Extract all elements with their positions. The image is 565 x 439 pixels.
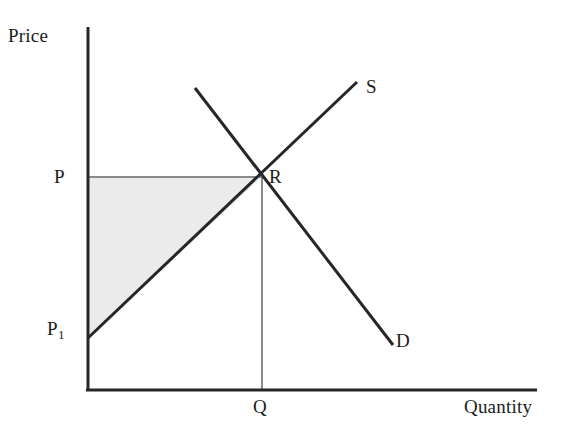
price-floor-subscript: 1 xyxy=(58,327,65,342)
quantity-equilibrium-label: Q xyxy=(253,396,267,418)
y-axis-title: Price xyxy=(8,25,48,47)
demand-curve xyxy=(195,88,393,345)
price-floor-base: P xyxy=(47,318,58,339)
chart-canvas xyxy=(0,0,565,439)
x-axis-title: Quantity xyxy=(464,396,532,418)
supply-demand-figure: Price Quantity P P1 Q R S D xyxy=(0,0,565,439)
supply-curve-label: S xyxy=(366,76,377,98)
price-equilibrium-label: P xyxy=(54,166,65,188)
demand-curve-label: D xyxy=(396,330,410,352)
price-floor-label: P1 xyxy=(47,318,64,340)
equilibrium-point-label: R xyxy=(269,166,282,188)
